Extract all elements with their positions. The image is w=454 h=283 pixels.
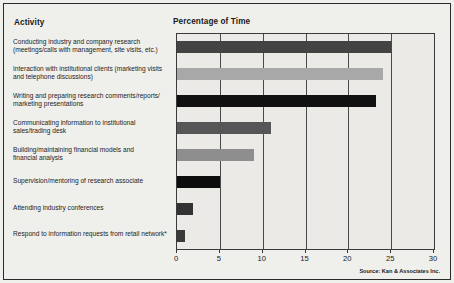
category-label: Conducting industry and company research… (13, 38, 173, 55)
x-axis-tick (262, 250, 263, 253)
x-axis-tick (305, 250, 306, 253)
gridline (220, 34, 221, 249)
gridline (348, 34, 349, 249)
category-label-line: and telephone discussions) (13, 73, 173, 81)
category-label-line: Attending industry conferences (13, 204, 173, 212)
category-label: Communicating information to institution… (13, 119, 173, 136)
x-axis-tick (219, 250, 220, 253)
x-axis-tick-label: 30 (429, 254, 437, 263)
x-axis-tick-label: 0 (174, 254, 178, 263)
bar (177, 68, 383, 80)
bar (177, 230, 185, 242)
category-label-line: Building/maintaining financial models an… (13, 146, 173, 154)
x-axis-tick-label: 25 (386, 254, 394, 263)
category-label-line: financial analysis (13, 154, 173, 162)
category-label: Attending industry conferences (13, 204, 173, 212)
category-label: Interaction with institutional clients (… (13, 65, 173, 82)
category-label-line: Supervision/mentoring of research associ… (13, 177, 173, 185)
category-label-line: Communicating information to institution… (13, 119, 173, 127)
gridline (263, 34, 264, 249)
gridline (391, 34, 392, 249)
plot-area (176, 33, 435, 250)
x-axis: 051015202530 (176, 250, 436, 266)
bar (177, 149, 254, 161)
category-label-column: Conducting industry and company research… (13, 34, 171, 249)
percentage-column-header: Percentage of Time (173, 17, 250, 26)
category-label: Building/maintaining financial models an… (13, 146, 173, 163)
bar (177, 95, 376, 107)
x-axis-tick (176, 250, 177, 253)
x-axis-tick-label: 20 (343, 254, 351, 263)
x-axis-tick-label: 10 (257, 254, 265, 263)
category-label: Writing and preparing research comments/… (13, 92, 173, 109)
bar (177, 176, 220, 188)
gridline (306, 34, 307, 249)
x-axis-tick (390, 250, 391, 253)
category-label-line: Interaction with institutional clients (… (13, 65, 173, 73)
chart-figure: Activity Percentage of Time Conducting i… (0, 0, 454, 283)
category-label-line: sales/trading desk (13, 127, 173, 135)
source-attribution: Source: Kan & Associates Inc. (359, 268, 440, 274)
category-label-line: Conducting industry and company research (13, 38, 173, 46)
x-axis-tick-label: 15 (300, 254, 308, 263)
x-axis-tick (347, 250, 348, 253)
chart-frame: Activity Percentage of Time Conducting i… (3, 3, 451, 280)
category-label: Supervision/mentoring of research associ… (13, 177, 173, 185)
category-label-line: marketing presentations (13, 100, 173, 108)
category-label-line: Writing and preparing research comments/… (13, 92, 173, 100)
x-axis-tick (433, 250, 434, 253)
bar (177, 122, 271, 134)
category-label-line: Respond to information requests from ret… (13, 230, 173, 238)
activity-column-header: Activity (14, 18, 44, 27)
bar (177, 203, 193, 215)
x-axis-tick-label: 5 (217, 254, 221, 263)
bar (177, 41, 391, 53)
category-label-line: (meetings/calls with management, site vi… (13, 46, 173, 54)
category-label: Respond to information requests from ret… (13, 230, 173, 238)
